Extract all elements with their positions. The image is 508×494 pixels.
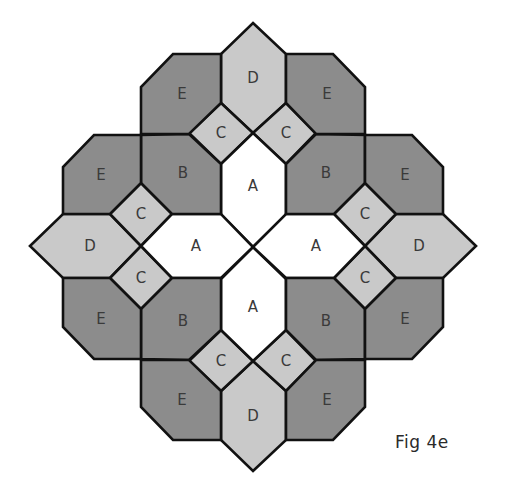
piece-label: E xyxy=(400,310,409,328)
piece-label: E xyxy=(400,166,409,184)
piece-label: E xyxy=(96,166,105,184)
piece-label: B xyxy=(178,312,188,330)
piece-label: E xyxy=(322,85,331,103)
piece-label: D xyxy=(84,237,96,255)
piece-label: C xyxy=(216,124,226,142)
quilt-block-diagram: DDDDCCCCCCCCAAAABBBBEEEEEEEE xyxy=(0,0,508,494)
piece-label: A xyxy=(248,177,259,195)
piece-label: A xyxy=(248,298,259,316)
piece-label: E xyxy=(177,85,186,103)
piece-label: C xyxy=(360,269,370,287)
piece-label: D xyxy=(247,407,259,425)
quilt-pieces xyxy=(30,23,476,471)
figure-caption: Fig 4e xyxy=(395,432,449,452)
piece-label: C xyxy=(136,269,146,287)
piece-label: C xyxy=(281,124,291,142)
piece-label: C xyxy=(216,352,226,370)
piece-label: E xyxy=(96,310,105,328)
piece-label: D xyxy=(413,237,425,255)
piece-label: A xyxy=(191,237,202,255)
piece-label: C xyxy=(360,205,370,223)
piece-label: B xyxy=(321,312,331,330)
piece-label: A xyxy=(311,237,322,255)
piece-label: D xyxy=(247,69,259,87)
piece-label: E xyxy=(177,391,186,409)
piece-label: B xyxy=(321,164,331,182)
piece-label: C xyxy=(281,352,291,370)
piece-label: B xyxy=(178,164,188,182)
piece-label: C xyxy=(136,205,146,223)
piece-label: E xyxy=(322,391,331,409)
